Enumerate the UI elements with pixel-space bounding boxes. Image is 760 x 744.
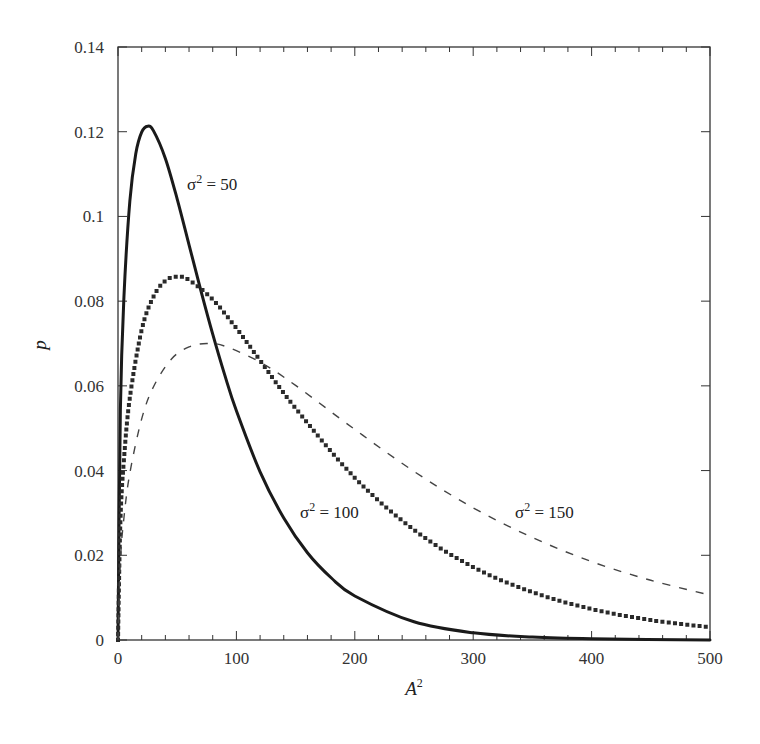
y-tick-label: 0.14 — [74, 38, 104, 57]
curve-label: σ2 = 50 — [187, 172, 237, 194]
x-tick-label: 400 — [579, 649, 605, 668]
y-tick-label: 0.02 — [74, 546, 104, 565]
y-tick-label: 0 — [96, 631, 105, 650]
x-tick-label: 300 — [460, 649, 486, 668]
y-tick-label: 0.08 — [74, 292, 104, 311]
x-tick-label: 500 — [697, 649, 723, 668]
y-axis-label: p — [29, 340, 50, 352]
x-tick-label: 0 — [114, 649, 123, 668]
y-tick-labels: 00.020.040.060.080.10.120.14 — [74, 38, 104, 650]
chart: 00.020.040.060.080.10.120.14 01002003004… — [0, 0, 760, 744]
series-line-dotted — [118, 277, 710, 640]
series-line-solid — [118, 126, 710, 640]
series-line-dashed — [118, 343, 710, 640]
x-tick-label: 200 — [342, 649, 368, 668]
y-tick-label: 0.1 — [83, 207, 104, 226]
x-axis-label: A2 — [403, 676, 423, 699]
x-tick-labels: 0100200300400500 — [114, 649, 723, 668]
curve-label: σ2 = 150 — [515, 500, 574, 522]
y-tick-label: 0.04 — [74, 462, 104, 481]
curve-annotations: σ2 = 50σ2 = 100σ2 = 150 — [187, 172, 574, 522]
y-tick-label: 0.06 — [74, 377, 104, 396]
y-tick-label: 0.12 — [74, 123, 104, 142]
series-lines — [118, 126, 710, 640]
curve-label: σ2 = 100 — [300, 500, 359, 522]
x-tick-label: 100 — [224, 649, 250, 668]
